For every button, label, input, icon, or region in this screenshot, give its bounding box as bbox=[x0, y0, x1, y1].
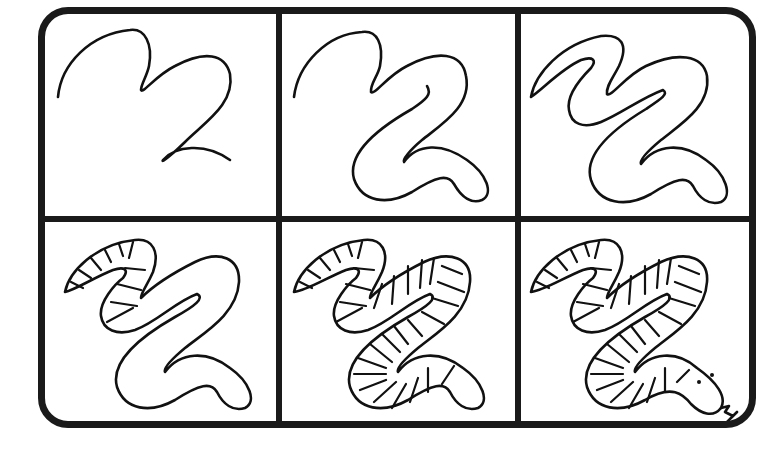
step-5-panel bbox=[282, 222, 515, 421]
step-1-guide-lines-drawing bbox=[45, 14, 276, 216]
step-3-full-outline-drawing bbox=[521, 14, 749, 216]
snake-eye-right bbox=[710, 373, 714, 377]
step-2-panel bbox=[282, 14, 515, 216]
step-1-panel bbox=[45, 14, 276, 216]
step-2-body-outline-drawing bbox=[282, 14, 515, 216]
step-3-panel bbox=[521, 14, 749, 216]
step-5-full-stripes-drawing bbox=[282, 222, 515, 421]
step-6-panel bbox=[521, 222, 749, 421]
step-6-finished-snake-drawing bbox=[521, 222, 749, 421]
tutorial-frame bbox=[38, 7, 756, 428]
step-4-partial-stripes-drawing bbox=[45, 222, 276, 421]
snake-eye-left bbox=[697, 380, 701, 384]
step-4-panel bbox=[45, 222, 276, 421]
snake-tongue bbox=[721, 406, 737, 421]
